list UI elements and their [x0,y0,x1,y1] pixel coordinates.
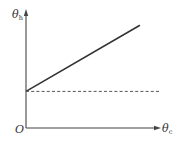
y-axis-label: θh [12,8,23,22]
series-solid-line [26,25,140,91]
x-axis-label-subscript: c [169,128,173,136]
y-axis-arrow-icon [24,9,28,16]
axes [24,9,161,130]
chart: θh θc O [0,0,181,145]
labels: θh θc O [12,8,173,136]
x-axis-label: θc [162,122,173,136]
y-axis-label-subscript: h [19,14,23,22]
origin-label: O [15,123,24,136]
series-layer [26,25,160,91]
x-axis-arrow-icon [154,126,161,130]
